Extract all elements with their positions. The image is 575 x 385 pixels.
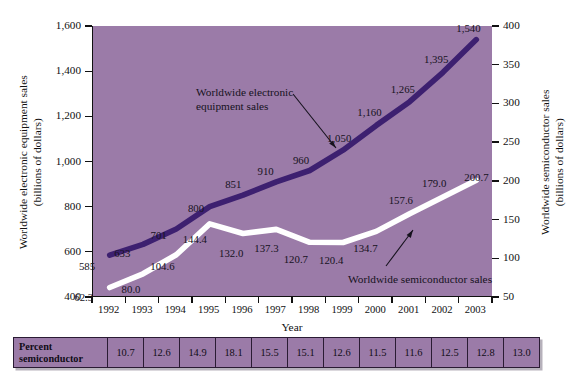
table-row-header-line1: Percent <box>19 341 52 352</box>
y-axis-right-title-line2: (billions of dollars) <box>553 118 565 206</box>
equipment-data-label: 1,395 <box>424 54 448 65</box>
x-axis-tick <box>191 297 192 303</box>
x-axis-tick-label: 2003 <box>454 305 496 316</box>
equipment-annotation-line1: Worldwide electronic <box>196 86 293 98</box>
y-axis-left-tick <box>85 206 92 207</box>
equipment-data-label: 1,160 <box>357 107 381 118</box>
y-axis-right-tick <box>492 141 499 142</box>
y-axis-right-tick-label: 150 <box>503 214 543 225</box>
semiconductor-data-label: 132.0 <box>219 248 243 259</box>
x-axis-tick <box>225 297 226 303</box>
equipment-series-annotation: Worldwide electronic equipment sales <box>196 85 293 113</box>
table-cell: 12.8 <box>468 338 504 368</box>
table-row-header: Percent semiconductor <box>14 338 108 368</box>
x-axis-tick <box>125 297 126 303</box>
equipment-data-label: 960 <box>293 155 309 166</box>
semiconductor-data-label: 179.0 <box>422 178 446 189</box>
equipment-data-label: 1,050 <box>327 133 351 144</box>
semiconductor-data-label: 200.7 <box>464 172 488 183</box>
table-cell: 12.6 <box>324 338 360 368</box>
y-axis-left-tick-label: 1,600 <box>36 20 81 31</box>
x-axis-tick <box>158 297 159 303</box>
x-axis-tick <box>425 297 426 303</box>
y-axis-left-tick <box>85 161 92 162</box>
table-cell: 14.9 <box>180 338 216 368</box>
x-axis-title: Year <box>92 321 492 333</box>
semiconductor-data-label: 80.0 <box>122 284 141 295</box>
semiconductor-data-label: 120.4 <box>319 255 343 266</box>
table-cell: 18.1 <box>216 338 252 368</box>
equipment-data-label: 633 <box>114 248 130 259</box>
semiconductor-series-annotation: Worldwide semiconductor sales <box>348 272 492 286</box>
y-axis-right-tick-label: 50 <box>503 291 543 302</box>
y-axis-left-tick-label: 1,200 <box>36 110 81 121</box>
y-axis-left-title-line1: Worldwide electronic equipment sales <box>17 75 29 249</box>
table-cell: 15.1 <box>288 338 324 368</box>
x-axis-tick <box>258 297 259 303</box>
table-cell: 12.5 <box>432 338 468 368</box>
y-axis-left-tick <box>85 251 92 252</box>
semiconductor-data-label: 104.6 <box>150 261 174 272</box>
semiconductor-data-label: 144.4 <box>183 234 207 245</box>
y-axis-right-tick <box>492 219 499 220</box>
y-axis-right-tick <box>492 258 499 259</box>
table-row: Percent semiconductor 10.712.614.918.115… <box>14 338 540 368</box>
semiconductor-data-label: 157.6 <box>389 195 413 206</box>
equipment-annotation-line2: equipment sales <box>196 100 268 112</box>
chart-figure: Worldwide electronic equipment sales (bi… <box>0 0 575 385</box>
y-axis-right-tick-label: 300 <box>503 97 543 108</box>
y-axis-left-tick-label: 1,000 <box>36 156 81 167</box>
x-axis-tick <box>325 297 326 303</box>
y-axis-right-title-line1: Worldwide semiconductor sales <box>539 89 551 234</box>
semiconductor-data-label: 134.7 <box>353 243 377 254</box>
y-axis-left-tick-label: 1,400 <box>36 65 81 76</box>
equipment-data-label: 1,265 <box>391 84 415 95</box>
equipment-data-label: 1,540 <box>456 23 480 34</box>
x-axis-tick <box>458 297 459 303</box>
semiconductor-annotation-line1: Worldwide semiconductor sales <box>348 273 492 285</box>
x-axis-tick <box>291 297 292 303</box>
equipment-data-label: 800 <box>188 203 204 214</box>
equipment-series-line <box>110 40 477 256</box>
semiconductor-data-label: 137.3 <box>254 243 278 254</box>
table-cell: 15.5 <box>252 338 288 368</box>
y-axis-right-tick <box>492 64 499 65</box>
y-axis-right-tick <box>492 180 499 181</box>
table-cell: 11.6 <box>396 338 432 368</box>
table-row-header-line2: semiconductor <box>19 353 83 364</box>
y-axis-right-tick-label: 100 <box>503 252 543 263</box>
y-axis-right-tick-label: 250 <box>503 136 543 147</box>
x-axis-tick <box>358 297 359 303</box>
percent-semiconductor-table: Percent semiconductor 10.712.614.918.115… <box>13 337 540 368</box>
equipment-data-label: 851 <box>225 179 241 190</box>
x-axis-tick <box>391 297 392 303</box>
table-cell: 13.0 <box>504 338 540 368</box>
y-axis-right-tick <box>492 103 499 104</box>
table-cell: 10.7 <box>108 338 144 368</box>
y-axis-left-tick-label: 800 <box>36 201 81 212</box>
table-cell: 11.5 <box>360 338 396 368</box>
y-axis-right-tick-label: 400 <box>503 20 543 31</box>
x-axis-tick <box>491 297 492 303</box>
y-axis-left-tick <box>85 25 92 26</box>
y-axis-right-tick-label: 350 <box>503 59 543 70</box>
semiconductor-data-label: 62.3 <box>74 292 93 303</box>
semiconductor-data-label: 120.7 <box>284 254 308 265</box>
equipment-data-label: 701 <box>151 230 167 241</box>
table-cell: 12.6 <box>144 338 180 368</box>
y-axis-left-tick-label: 600 <box>36 246 81 257</box>
y-axis-right-tick <box>492 296 499 297</box>
equipment-data-label: 585 <box>79 261 95 272</box>
equipment-data-label: 910 <box>258 166 274 177</box>
y-axis-left-tick <box>85 116 92 117</box>
y-axis-right-tick-label: 200 <box>503 175 543 186</box>
y-axis-right-tick <box>492 25 499 26</box>
y-axis-left-tick <box>85 71 92 72</box>
